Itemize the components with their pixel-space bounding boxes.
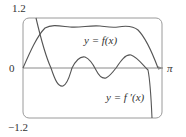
label-f: y = f(x): [83, 34, 117, 47]
label-f-func: f(x): [102, 34, 118, 47]
label-f-prime: y = f ′(x): [105, 91, 145, 104]
label-f-prime-prefix: y =: [105, 91, 124, 103]
label-f-prefix: y =: [83, 34, 102, 46]
chart: 1.2 0 −1.2 π y = f(x) y = f ′(x): [0, 0, 186, 137]
y-tick-top: 1.2: [12, 2, 26, 14]
label-f-prime-func: f ′(x): [124, 91, 145, 104]
x-tick-pi: π: [167, 62, 173, 74]
y-tick-zero: 0: [9, 62, 15, 74]
y-tick-bottom: −1.2: [8, 121, 28, 133]
